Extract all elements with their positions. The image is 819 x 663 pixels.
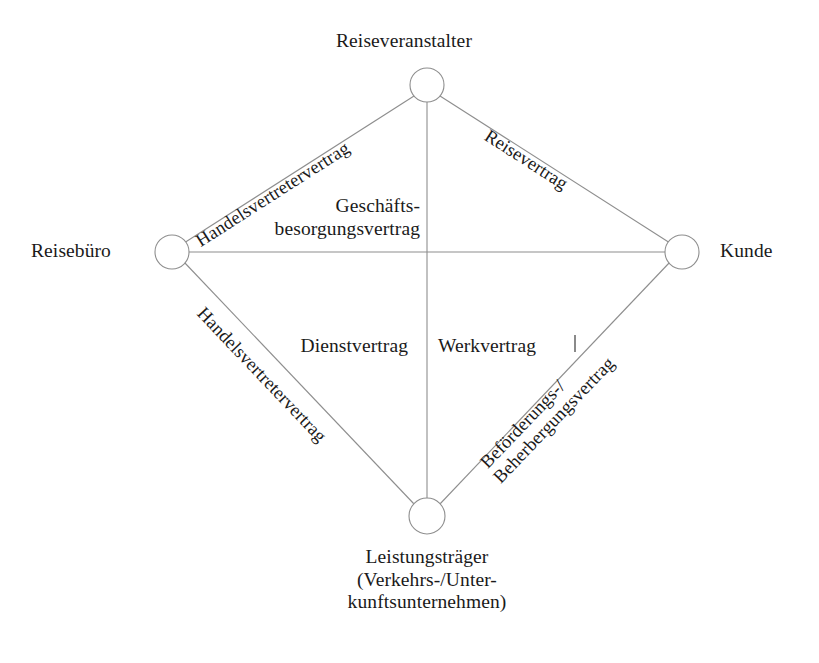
node-label-reiseveranstalter: Reiseveranstalter: [336, 30, 472, 53]
node-circle-reiseveranstalter[interactable]: [410, 68, 444, 102]
inner-label-geschaeftsbesorgungsvertrag-line1: Geschäfts-: [180, 195, 420, 218]
inner-label-geschaeftsbesorgungsvertrag: Geschäfts- besorgungsvertrag: [180, 195, 420, 240]
inner-label-dienstvertrag: Dienstvertrag: [301, 335, 417, 358]
edge-reisebuero-leistungstraeger: [184, 262, 415, 505]
node-circle-kunde[interactable]: [665, 235, 699, 269]
node-label-reisebuero: Reisebüro: [31, 240, 111, 263]
node-circle-leistungstraeger[interactable]: [409, 498, 445, 534]
node-label-kunde: Kunde: [720, 240, 773, 263]
node-label-leistungstraeger-line3: kunftsunternehmen): [348, 591, 507, 614]
node-label-leistungstraeger: Leistungsträger (Verkehrs-/Unter- kunfts…: [348, 546, 507, 614]
inner-label-werkvertrag: Werkvertrag: [438, 335, 536, 358]
node-label-leistungstraeger-line1: Leistungsträger: [348, 546, 507, 569]
node-label-leistungstraeger-line2: (Verkehrs-/Unter-: [348, 569, 507, 592]
inner-label-geschaeftsbesorgungsvertrag-line2: besorgungsvertrag: [180, 218, 420, 241]
